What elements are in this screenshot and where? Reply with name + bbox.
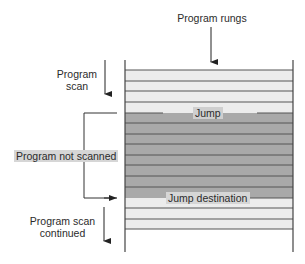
program-not-scanned-label: Program not scanned	[14, 150, 118, 162]
program-scan-line1: Program	[55, 68, 99, 80]
program-scan-line2: scan	[55, 80, 99, 92]
scan-continued-line2: continued	[25, 227, 100, 239]
scan-continued-line1: Program scan	[25, 215, 100, 227]
program-scan-label: Program scan	[55, 68, 99, 92]
jump-destination-label: Jump destination	[168, 192, 247, 204]
jump-label: Jump	[195, 107, 221, 119]
program-rungs-label: Program rungs	[172, 12, 252, 24]
program-scan-continued-label: Program scan continued	[25, 215, 100, 239]
